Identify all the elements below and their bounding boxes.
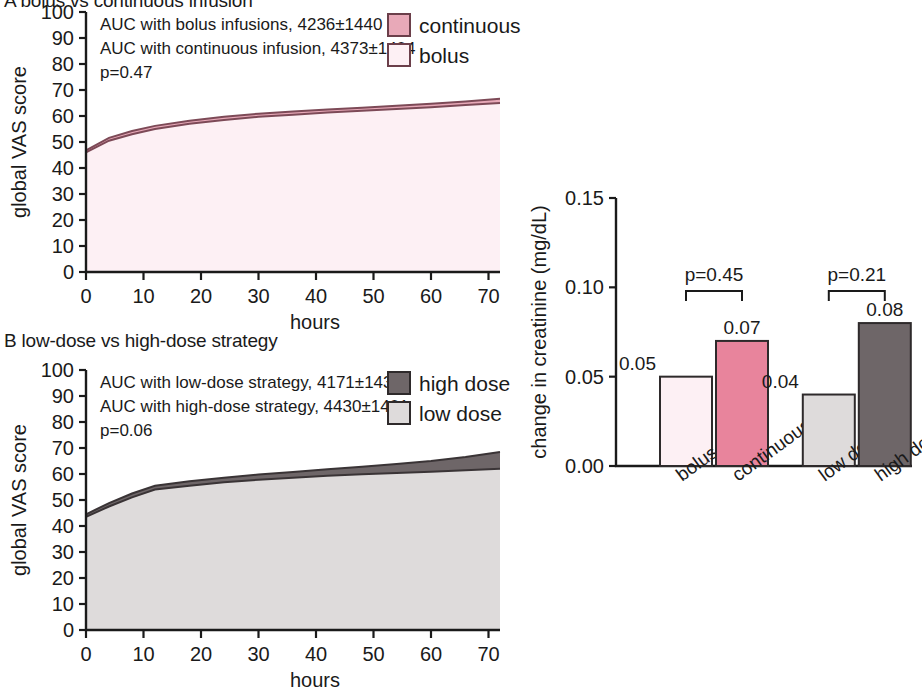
x-tick-label: 40 xyxy=(305,643,327,665)
legend-swatch xyxy=(388,402,410,424)
y-tick-label: 40 xyxy=(52,515,74,537)
y-tick-label: 0 xyxy=(63,619,74,641)
y-tick-label: 10 xyxy=(52,235,74,257)
significance-bracket xyxy=(686,291,742,301)
legend-swatch xyxy=(388,14,410,36)
y-tick-label: 40 xyxy=(52,157,74,179)
y-tick-label: 50 xyxy=(52,131,74,153)
p-value-label: p=0.45 xyxy=(685,264,744,285)
x-tick-label: 60 xyxy=(420,285,442,307)
y-tick-label: 80 xyxy=(52,53,74,75)
x-tick-label: 60 xyxy=(420,643,442,665)
panel-b-title: B low-dose vs high-dose strategy xyxy=(4,330,277,352)
bar-value-label: 0.08 xyxy=(866,299,903,320)
y-tick-label: 0.05 xyxy=(565,366,604,388)
panel-a: A bolus vs continuous infusion 010203040… xyxy=(0,0,520,334)
y-tick-label: 0.15 xyxy=(565,187,604,209)
panel-a-chart: 0102030405060708090100010203040506070hou… xyxy=(0,0,520,334)
x-tick-label: 20 xyxy=(190,643,212,665)
bar-value-label: 0.04 xyxy=(762,371,799,392)
x-tick-label: 0 xyxy=(80,285,91,307)
y-tick-label: 30 xyxy=(52,183,74,205)
legend-label: low dose xyxy=(419,402,502,425)
x-tick-label: 10 xyxy=(132,643,154,665)
legend-swatch xyxy=(388,44,410,66)
annotation-line: AUC with low-dose strategy, 4171±1436 xyxy=(100,373,402,392)
x-tick-label: 20 xyxy=(190,285,212,307)
x-tick-label: 50 xyxy=(362,285,384,307)
panel-c: 0.000.050.100.15change in creatinine (mg… xyxy=(520,170,922,570)
x-tick-label: 0 xyxy=(80,643,91,665)
y-tick-label: 30 xyxy=(52,541,74,563)
y-axis-label: global VAS score xyxy=(8,66,30,218)
x-tick-label: 40 xyxy=(305,285,327,307)
y-tick-label: 10 xyxy=(52,593,74,615)
panel-a-title: A bolus vs continuous infusion xyxy=(4,0,253,12)
x-tick-label: 70 xyxy=(477,285,499,307)
x-tick-label: 50 xyxy=(362,643,384,665)
panel-b: B low-dose vs high-dose strategy 0102030… xyxy=(0,330,520,698)
legend-label: bolus xyxy=(419,44,469,67)
y-tick-label: 60 xyxy=(52,105,74,127)
bar-value-label: 0.05 xyxy=(619,353,656,374)
x-tick-label: 70 xyxy=(477,643,499,665)
p-value-label: p=0.21 xyxy=(827,264,886,285)
x-tick-label: 30 xyxy=(247,285,269,307)
y-tick-label: 90 xyxy=(52,385,74,407)
y-tick-label: 0 xyxy=(63,261,74,283)
y-tick-label: 70 xyxy=(52,79,74,101)
y-tick-label: 0.10 xyxy=(565,276,604,298)
y-axis-label: global VAS score xyxy=(8,424,30,576)
legend-swatch xyxy=(388,372,410,394)
x-tick-label: 10 xyxy=(132,285,154,307)
y-tick-label: 90 xyxy=(52,27,74,49)
y-tick-label: 20 xyxy=(52,209,74,231)
x-axis-label: hours xyxy=(290,669,340,691)
annotation-line: AUC with bolus infusions, 4236±1440 xyxy=(100,15,382,34)
y-tick-label: 20 xyxy=(52,567,74,589)
y-tick-label: 80 xyxy=(52,411,74,433)
legend-label: high dose xyxy=(419,372,510,395)
y-tick-label: 0.00 xyxy=(565,455,604,477)
x-tick-label: 30 xyxy=(247,643,269,665)
y-tick-label: 60 xyxy=(52,463,74,485)
annotation-line: p=0.47 xyxy=(100,63,152,82)
y-axis-label: change in creatinine (mg/dL) xyxy=(528,205,550,458)
y-tick-label: 100 xyxy=(41,359,74,381)
bar-value-label: 0.07 xyxy=(724,317,761,338)
y-tick-label: 70 xyxy=(52,437,74,459)
annotation-line: AUC with high-dose strategy, 4430±1401 xyxy=(100,397,409,416)
y-tick-label: 50 xyxy=(52,489,74,511)
annotation-line: p=0.06 xyxy=(100,421,152,440)
panel-c-chart: 0.000.050.100.15change in creatinine (mg… xyxy=(520,170,922,570)
legend-label: continuous xyxy=(419,14,521,37)
annotation-line: AUC with continuous infusion, 4373±1404 xyxy=(100,39,416,58)
panel-b-chart: 0102030405060708090100010203040506070hou… xyxy=(0,352,520,698)
